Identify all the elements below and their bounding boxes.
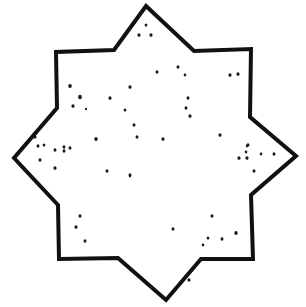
- eight-pointed-star-drawing: [0, 0, 306, 307]
- dot: [71, 104, 74, 108]
- dot: [237, 156, 240, 160]
- dot: [228, 73, 231, 77]
- dot: [207, 236, 210, 239]
- dot: [221, 237, 224, 240]
- dot: [85, 108, 87, 111]
- dot: [133, 123, 136, 126]
- dot: [156, 70, 159, 73]
- dot: [43, 143, 46, 146]
- dot: [260, 153, 263, 156]
- dot: [188, 114, 191, 118]
- dot: [79, 214, 82, 217]
- dot: [211, 214, 214, 217]
- dot: [184, 74, 187, 77]
- dot: [74, 225, 77, 229]
- dot: [68, 84, 72, 88]
- dot: [187, 96, 190, 99]
- dot: [145, 23, 148, 26]
- dot: [63, 145, 66, 148]
- dot: [63, 149, 66, 152]
- dot: [188, 278, 191, 281]
- dot: [124, 108, 127, 111]
- dot: [108, 96, 111, 100]
- dot: [149, 33, 152, 37]
- dot: [185, 106, 188, 109]
- dot: [84, 239, 87, 242]
- dot: [246, 145, 248, 148]
- star-figure-canvas: [0, 0, 306, 307]
- dot: [253, 169, 256, 172]
- dot: [161, 137, 164, 141]
- dot: [234, 231, 237, 235]
- dot: [218, 133, 221, 137]
- dot: [128, 85, 131, 89]
- dot: [129, 175, 131, 178]
- dot: [34, 135, 37, 138]
- dot: [39, 158, 42, 161]
- dot: [94, 137, 97, 141]
- dot: [136, 135, 139, 138]
- dot: [106, 169, 109, 172]
- dot: [236, 72, 239, 76]
- dot: [245, 156, 248, 160]
- dot: [245, 151, 248, 154]
- dot: [54, 148, 57, 151]
- dot: [78, 95, 82, 99]
- dot: [177, 65, 180, 68]
- dot: [273, 152, 276, 155]
- dot: [172, 227, 175, 230]
- dot: [202, 244, 205, 247]
- dot: [69, 146, 72, 149]
- dot: [53, 166, 56, 170]
- dot: [37, 144, 40, 147]
- dot: [137, 33, 140, 37]
